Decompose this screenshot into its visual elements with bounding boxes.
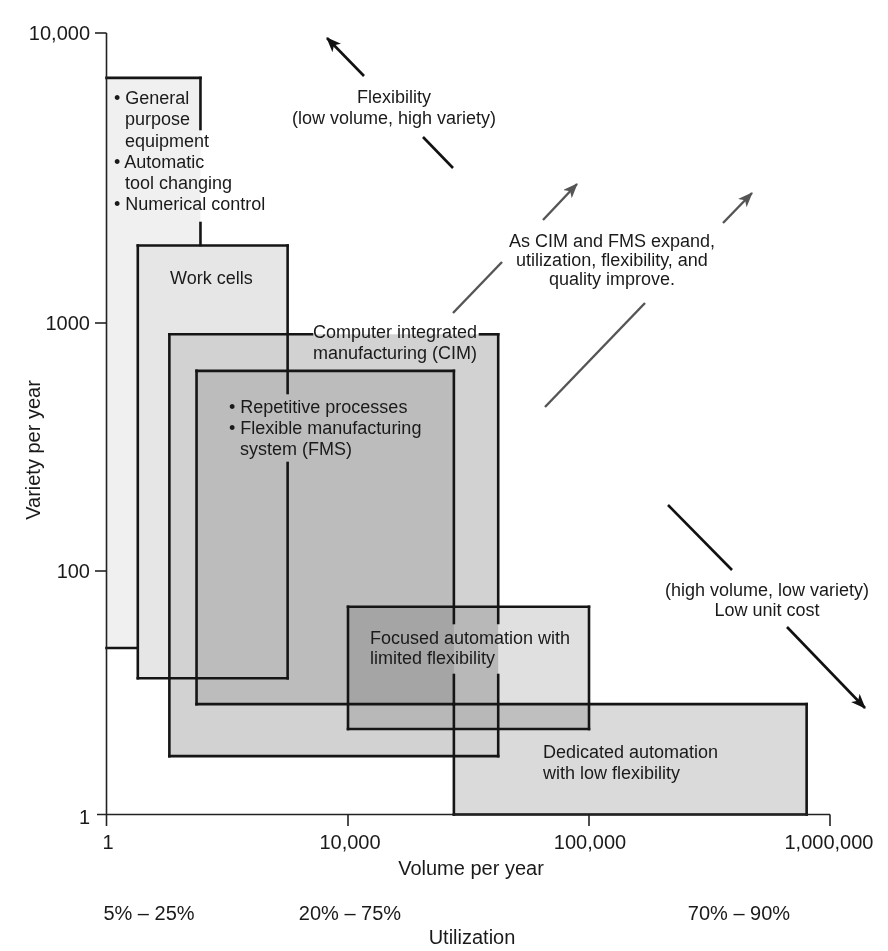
volume-variety-chart: • General purpose equipment • Automatic … <box>0 0 888 951</box>
x-axis-title: Volume per year <box>371 858 571 878</box>
utilization-range-mid: 20% – 75% <box>280 903 420 923</box>
x-tick-label: 1,000,000 <box>759 832 888 852</box>
dedicated-automation-label: Dedicated automation with low flexibilit… <box>543 742 718 784</box>
x-tick-label: 100,000 <box>520 832 660 852</box>
region-label-line: equipment <box>114 131 265 152</box>
low-unit-cost-annotation: (high volume, low variety) Low unit cost <box>647 580 887 620</box>
x-tick-label: 1 <box>38 832 178 852</box>
x-tick-label: 10,000 <box>280 832 420 852</box>
y-tick-label: 1 <box>0 807 90 827</box>
region-label-line: Focused automation with <box>370 628 570 649</box>
region-label-line: system (FMS) <box>229 439 421 460</box>
region-label-line: tool changing <box>114 173 265 194</box>
utilization-axis-title: Utilization <box>402 927 542 947</box>
y-tick-label: 1000 <box>0 313 90 333</box>
region-label-line: with low flexibility <box>543 763 718 784</box>
general-purpose-label: • General purpose equipment • Automatic … <box>114 88 265 216</box>
fms-label: • Repetitive processes • Flexible manufa… <box>229 397 421 460</box>
region-label-line: Computer integrated <box>313 322 477 343</box>
arrow-down-right-icon <box>787 627 865 708</box>
region-label-line: Work cells <box>170 267 253 289</box>
region-label-line: • Automatic <box>114 152 265 173</box>
focused-automation-label: Focused automation with limited flexibil… <box>370 628 570 669</box>
arrow-up-right-icon <box>543 184 577 220</box>
region-label-line: Dedicated automation <box>543 742 718 763</box>
flexibility-annotation: Flexibility (low volume, high variety) <box>274 87 514 129</box>
utilization-range-high: 70% – 90% <box>669 903 809 923</box>
y-tick-label: 10,000 <box>0 23 90 43</box>
arrow-up-right-icon <box>723 193 752 223</box>
region-label-line: • Repetitive processes <box>229 397 421 418</box>
y-tick-label: 100 <box>0 561 90 581</box>
region-label-line: • Flexible manufacturing <box>229 418 421 439</box>
annotation-line: (high volume, low variety) <box>647 580 887 600</box>
arrow-tail-line <box>668 505 732 570</box>
region-label-line: • General <box>114 88 265 109</box>
annotation-line: Low unit cost <box>647 600 887 620</box>
cim-label: Computer integrated manufacturing (CIM) <box>313 322 477 363</box>
y-axis-title: Variety per year <box>23 350 43 550</box>
utilization-range-low: 5% – 25% <box>79 903 219 923</box>
annotation-line: Flexibility <box>274 87 514 108</box>
cim-fms-expand-annotation: As CIM and FMS expand, utilization, flex… <box>492 232 732 289</box>
work-cells-label: Work cells <box>170 267 253 289</box>
annotation-line: As CIM and FMS expand, <box>492 232 732 251</box>
arrow-tail-line <box>545 303 645 407</box>
annotation-line: (low volume, high variety) <box>274 108 514 129</box>
region-label-line: purpose <box>114 109 265 130</box>
arrow-up-left-icon <box>327 38 364 76</box>
annotation-line: quality improve. <box>492 270 732 289</box>
region-label-line: • Numerical control <box>114 194 265 215</box>
annotation-line: utilization, flexibility, and <box>492 251 732 270</box>
arrow-tail-line <box>423 137 453 168</box>
region-label-line: limited flexibility <box>370 648 570 669</box>
region-label-line: manufacturing (CIM) <box>313 343 477 364</box>
